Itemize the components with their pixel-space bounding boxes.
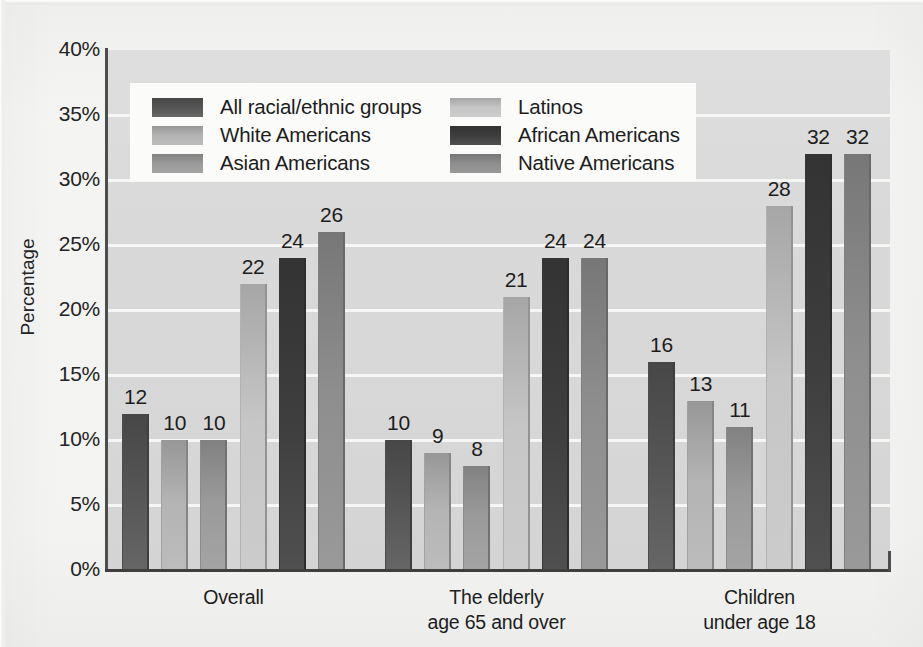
legend-label: Asian Americans	[220, 151, 370, 175]
legend-swatch-icon	[152, 98, 203, 117]
bar	[424, 453, 451, 570]
legend-label: Latinos	[518, 95, 583, 119]
y-axis-tick-labels: 0%5%10%15%20%25%30%35%40%	[0, 0, 100, 647]
bar	[503, 297, 530, 570]
bar-value-label: 12	[106, 385, 166, 409]
bar-value-label: 13	[671, 372, 731, 396]
legend-label: Native Americans	[518, 151, 674, 175]
y-tick-label: 40%	[8, 37, 100, 61]
bar-value-label: 8	[447, 437, 507, 461]
bar	[122, 414, 149, 570]
x-group-label-line: Overall	[114, 585, 354, 610]
y-axis-line	[105, 48, 108, 572]
x-group-label: The elderlyage 65 and over	[377, 585, 617, 635]
x-group-label: Overall	[114, 585, 354, 610]
legend-label: White Americans	[220, 123, 371, 147]
x-axis-line	[105, 569, 891, 572]
bar-value-label: 22	[223, 255, 283, 279]
y-tick-label: 30%	[8, 167, 100, 191]
legend-label: All racial/ethnic groups	[220, 95, 421, 119]
bar	[766, 206, 793, 570]
bar-value-label: 24	[262, 229, 322, 253]
bar-value-label: 10	[184, 411, 244, 435]
x-group-label-line: under age 18	[640, 610, 880, 635]
gridline	[108, 49, 890, 52]
y-tick-label: 0%	[8, 557, 100, 581]
bar-chart-figure: 0%5%10%15%20%25%30%35%40% Percentage 121…	[0, 0, 923, 647]
legend-swatch-icon	[450, 126, 501, 145]
bar	[844, 154, 871, 570]
x-axis-right-tick	[888, 551, 891, 571]
bar-value-label: 16	[632, 333, 692, 357]
legend-item: Native Americans	[450, 150, 680, 176]
x-group-label-line: Children	[640, 585, 880, 610]
legend-item: African Americans	[450, 122, 680, 148]
legend-column: LatinosAfrican AmericansNative Americans	[450, 94, 680, 178]
legend-item: White Americans	[152, 122, 421, 148]
x-group-label: Childrenunder age 18	[640, 585, 880, 635]
legend-swatch-icon	[152, 126, 203, 145]
bar-value-label: 24	[565, 229, 625, 253]
bar-value-label: 21	[486, 268, 546, 292]
bar-value-label: 26	[302, 203, 362, 227]
legend-swatch-icon	[450, 98, 501, 117]
y-tick-label: 35%	[8, 102, 100, 126]
chart-legend: All racial/ethnic groupsWhite AmericansA…	[130, 83, 696, 181]
bar	[581, 258, 608, 570]
bar-value-label: 32	[828, 125, 888, 149]
bar	[279, 258, 306, 570]
y-tick-label: 5%	[8, 492, 100, 516]
legend-label: African Americans	[518, 123, 680, 147]
bar-value-label: 11	[710, 398, 770, 422]
x-group-label-line: The elderly	[377, 585, 617, 610]
bar-value-label: 28	[749, 177, 809, 201]
legend-swatch-icon	[450, 154, 501, 173]
bar	[200, 440, 227, 570]
bar	[726, 427, 753, 570]
bar	[385, 440, 412, 570]
bar	[542, 258, 569, 570]
bar	[463, 466, 490, 570]
y-axis-title: Percentage	[17, 207, 39, 367]
bar	[805, 154, 832, 570]
page-top-edge	[0, 0, 923, 7]
y-tick-label: 10%	[8, 427, 100, 451]
bar	[161, 440, 188, 570]
bar	[687, 401, 714, 570]
legend-item: All racial/ethnic groups	[152, 94, 421, 120]
legend-item: Asian Americans	[152, 150, 421, 176]
legend-item: Latinos	[450, 94, 680, 120]
legend-column: All racial/ethnic groupsWhite AmericansA…	[152, 94, 421, 178]
bar	[318, 232, 345, 570]
legend-swatch-icon	[152, 154, 203, 173]
x-group-label-line: age 65 and over	[377, 610, 617, 635]
